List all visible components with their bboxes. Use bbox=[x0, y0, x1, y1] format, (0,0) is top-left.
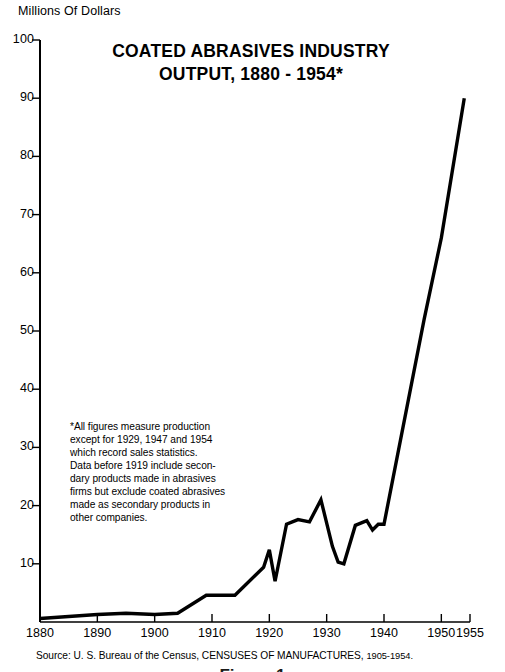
footnote-line: other companies. bbox=[70, 511, 275, 524]
footnote-line: firms but exclude coated abrasives bbox=[70, 485, 275, 498]
y-tick-label: 20 bbox=[0, 498, 34, 512]
plot-area bbox=[0, 0, 505, 672]
y-tick-label: 100 bbox=[0, 32, 34, 46]
axis-lines bbox=[40, 40, 470, 622]
chart-title: COATED ABRASIVES INDUSTRY OUTPUT, 1880 -… bbox=[52, 40, 450, 86]
x-tick-label: 1890 bbox=[74, 626, 120, 640]
x-tick-label: 1920 bbox=[246, 626, 292, 640]
source-years: 1905-1954. bbox=[366, 651, 413, 661]
y-tick-label: 80 bbox=[0, 148, 34, 162]
y-tick-label: 70 bbox=[0, 207, 34, 221]
footnote-line: except for 1929, 1947 and 1954 bbox=[70, 433, 275, 446]
y-tick-label: 50 bbox=[0, 323, 34, 337]
footnote-line: dary products made in abrasives bbox=[70, 472, 275, 485]
figure-label: Figure 1 bbox=[0, 666, 505, 672]
footnote-line: Data before 1919 include secon- bbox=[70, 459, 275, 472]
chart-svg bbox=[0, 0, 505, 672]
x-tick-label: 1900 bbox=[132, 626, 178, 640]
source-note: Source: U. S. Bureau of the Census, CENS… bbox=[36, 650, 413, 661]
y-tick-label: 30 bbox=[0, 439, 34, 453]
footnote-line: *All figures measure production bbox=[70, 420, 275, 433]
source-prefix: Source: U. S. Bureau of the Census, bbox=[36, 650, 199, 661]
chart-title-line1: COATED ABRASIVES INDUSTRY bbox=[52, 40, 450, 63]
y-tick-label: 90 bbox=[0, 90, 34, 104]
x-tick-label: 1940 bbox=[361, 626, 407, 640]
y-tick-label: 60 bbox=[0, 265, 34, 279]
figure-container: Millions Of Dollars 10203040506070809010… bbox=[0, 0, 505, 672]
y-tick-marks bbox=[32, 40, 40, 564]
x-tick-label: 1880 bbox=[17, 626, 63, 640]
footnote-block: *All figures measure productionexcept fo… bbox=[70, 420, 275, 524]
source-publication: CENSUSES OF MANUFACTURES, bbox=[202, 650, 364, 661]
footnote-line: which record sales statistics. bbox=[70, 446, 275, 459]
y-tick-label: 10 bbox=[0, 556, 34, 570]
footnote-line: made as secondary products in bbox=[70, 498, 275, 511]
data-series-line bbox=[40, 98, 464, 618]
y-tick-label: 40 bbox=[0, 381, 34, 395]
chart-title-line2: OUTPUT, 1880 - 1954* bbox=[52, 63, 450, 86]
x-tick-label: 1910 bbox=[189, 626, 235, 640]
x-tick-label: 1955 bbox=[447, 626, 493, 640]
x-tick-label: 1930 bbox=[304, 626, 350, 640]
